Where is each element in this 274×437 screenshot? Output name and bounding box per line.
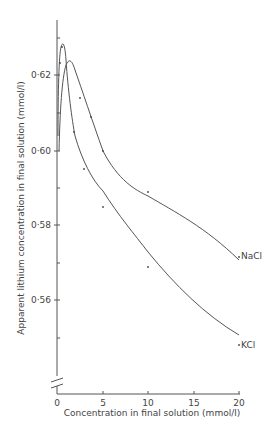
x-tick-label: 20 — [233, 398, 245, 408]
y-tick-label: 0·58 — [31, 220, 51, 230]
y-tick-label: 0·56 — [31, 295, 51, 305]
x-tick-label: 0 — [54, 398, 60, 408]
chart-canvas: 0·62 0·60 0·58 0·56 0 5 10 15 20 Concent… — [0, 0, 274, 437]
kcl-label: KCl — [241, 340, 255, 350]
y-tick-label: 0·60 — [31, 146, 51, 156]
kcl-curve — [58, 44, 239, 335]
x-tick-label: 15 — [188, 398, 199, 408]
kcl-markers — [59, 46, 240, 346]
nacl-label: NaCl — [241, 251, 262, 261]
nacl-curve — [59, 61, 239, 260]
axis-break-mark — [51, 378, 63, 382]
x-axis-title: Concentration in final solution (mmol/l) — [64, 408, 240, 418]
y-tick-label: 0·62 — [31, 70, 51, 80]
x-tick-label: 5 — [100, 398, 106, 408]
nacl-markers — [79, 97, 240, 258]
y-axis-title: Apparent lithium concentration in final … — [16, 81, 26, 334]
x-tick-label: 10 — [142, 398, 154, 408]
